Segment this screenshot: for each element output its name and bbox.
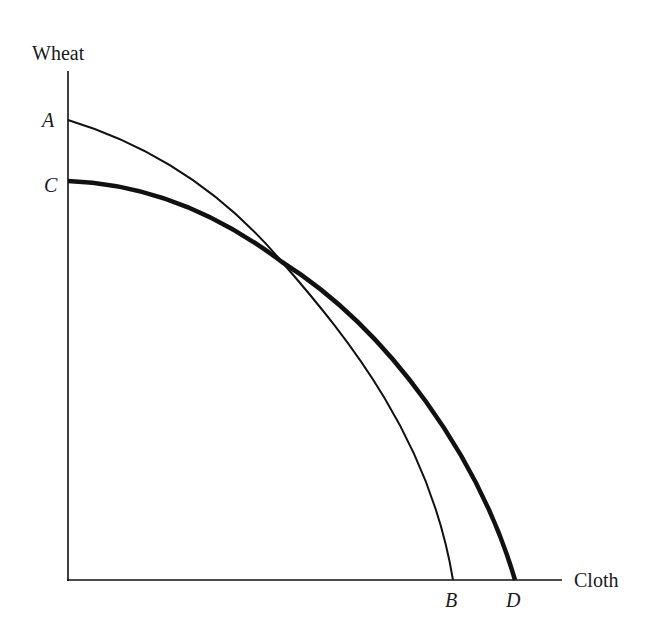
point-c-label: C <box>44 174 58 196</box>
x-axis-label: Cloth <box>574 569 618 591</box>
point-b-label: B <box>445 589 457 611</box>
y-axis-label: Wheat <box>32 42 85 64</box>
ppf-diagram: Wheat Cloth A C B D <box>0 0 664 637</box>
point-a-label: A <box>40 109 55 131</box>
curve-cd <box>68 181 515 580</box>
point-d-label: D <box>505 589 521 611</box>
